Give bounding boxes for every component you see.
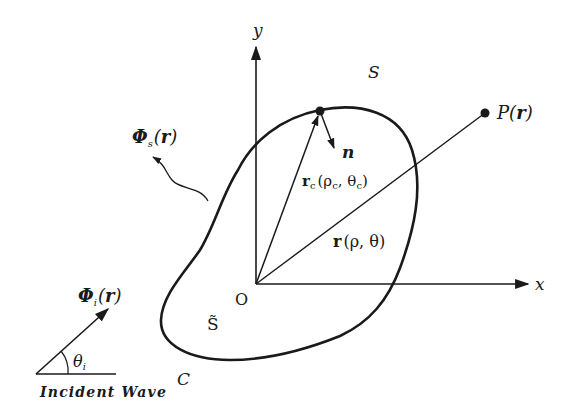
scattered-wave-arrow [153,157,208,201]
boundary-position-label: rc(ρc, θc) [302,172,368,191]
scattered-field-label: Φs(r) [132,126,177,149]
interior-region-label: S̃ [207,314,219,334]
field-position-label: r(ρ, θ) [333,232,385,251]
observation-point [481,109,490,118]
incident-angle-arc [61,351,68,374]
boundary-position-vector [256,116,318,284]
incident-angle-label: θi [73,352,86,372]
observation-point-label: P(r) [496,102,533,123]
normal-label: n [342,142,354,162]
y-axis-label: y [252,20,263,40]
incident-wave-caption: Incident Wave [39,384,167,400]
origin-label: O [235,290,248,309]
field-position-line [256,113,485,284]
x-axis-label: x [535,274,545,294]
exterior-region-label: S [368,62,380,82]
normal-vector [320,111,334,148]
incident-field-label: Φi(r) [78,285,121,308]
scattering-diagram: y x O S S̃ C n rc(ρc, θc) r(ρ, θ) P(r) Φ… [0,0,575,417]
incident-direction-arrow [36,309,108,374]
contour-label: C [177,369,190,389]
